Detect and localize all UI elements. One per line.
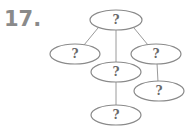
- node-right-label: ?: [152, 47, 159, 61]
- node-right-child-label: ?: [155, 84, 162, 98]
- edge-right-rightchild: [157, 63, 158, 82]
- edge-root-right: [134, 28, 148, 45]
- node-middle-label: ?: [112, 65, 119, 79]
- node-left-label: ?: [71, 47, 78, 61]
- node-bottom-label: ?: [112, 108, 119, 122]
- node-root-label: ?: [112, 13, 119, 27]
- tree-diagram: ? ? ? ? ? ?: [0, 0, 191, 130]
- edge-root-left: [84, 28, 98, 45]
